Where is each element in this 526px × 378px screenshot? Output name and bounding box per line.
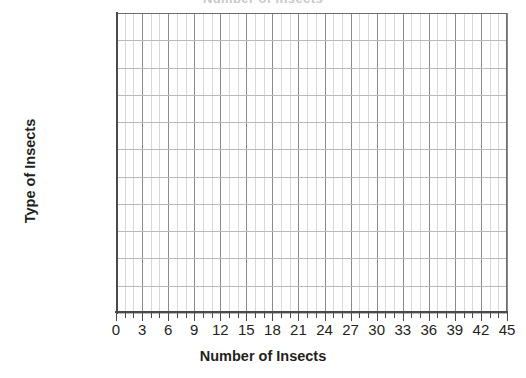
gridline-vertical-minor (186, 13, 187, 313)
x-tick-minor (238, 313, 239, 318)
x-tick-major (246, 313, 247, 321)
x-tick-minor (472, 313, 473, 318)
x-tick-minor (464, 313, 465, 318)
plot-area (116, 13, 507, 313)
x-tick-minor (307, 313, 308, 318)
x-tick-major (429, 313, 430, 321)
x-tick-minor (133, 313, 134, 318)
x-tick-major (194, 313, 195, 321)
x-tick-minor (420, 313, 421, 318)
gridline-vertical-major (220, 13, 221, 313)
gridline-vertical-minor (437, 13, 438, 313)
gridline-vertical-minor (394, 13, 395, 313)
x-tick-major (168, 313, 169, 321)
x-tick-major (403, 313, 404, 321)
gridline-vertical-major (429, 13, 430, 313)
x-tick-major (325, 313, 326, 321)
gridline-vertical-minor (151, 13, 152, 313)
x-tick-minor (368, 313, 369, 318)
x-tick-minor (394, 313, 395, 318)
gridline-vertical-minor (490, 13, 491, 313)
x-tick-major (507, 313, 508, 321)
chart-title: Number of Insects (0, 0, 526, 6)
gridlines (116, 13, 507, 313)
gridline-vertical-minor (264, 13, 265, 313)
gridline-vertical-minor (359, 13, 360, 313)
x-tick-major (272, 313, 273, 321)
x-tick-minor (125, 313, 126, 318)
gridline-horizontal (116, 13, 507, 14)
x-tick-minor (359, 313, 360, 318)
x-tick-minor (186, 313, 187, 318)
gridline-vertical-minor (203, 13, 204, 313)
gridline-vertical-minor (333, 13, 334, 313)
gridline-vertical-minor (125, 13, 126, 313)
x-axis-title: Number of Insects (0, 348, 526, 364)
gridline-vertical-minor (133, 13, 134, 313)
x-tick-minor (290, 313, 291, 318)
gridline-vertical-major (272, 13, 273, 313)
x-tick-major (298, 313, 299, 321)
x-tick-label: 45 (487, 321, 526, 338)
gridline-vertical-minor (177, 13, 178, 313)
gridline-horizontal (116, 204, 507, 205)
gridline-horizontal (116, 68, 507, 69)
x-tick-minor (437, 313, 438, 318)
gridline-vertical-major (142, 13, 143, 313)
gridline-horizontal (116, 177, 507, 178)
gridline-horizontal (116, 149, 507, 150)
gridline-vertical-major (455, 13, 456, 313)
gridline-vertical-minor (238, 13, 239, 313)
gridline-vertical-major (325, 13, 326, 313)
gridline-vertical-major (403, 13, 404, 313)
gridline-vertical-minor (255, 13, 256, 313)
x-tick-minor (203, 313, 204, 318)
x-axis-line (115, 311, 508, 313)
gridline-horizontal (116, 40, 507, 41)
x-tick-major (220, 313, 221, 321)
y-axis-title: Type of Insects (22, 71, 38, 271)
gridline-horizontal (116, 313, 507, 314)
gridline-vertical-major (168, 13, 169, 313)
x-tick-minor (151, 313, 152, 318)
gridline-vertical-major (377, 13, 378, 313)
gridline-vertical-minor (472, 13, 473, 313)
x-tick-minor (229, 313, 230, 318)
x-tick-minor (212, 313, 213, 318)
gridline-vertical-minor (212, 13, 213, 313)
gridline-vertical-minor (464, 13, 465, 313)
gridline-vertical-major (246, 13, 247, 313)
x-tick-minor (264, 313, 265, 318)
x-tick-minor (411, 313, 412, 318)
gridline-vertical-major (351, 13, 352, 313)
gridline-vertical-major (194, 13, 195, 313)
y-axis-line (116, 12, 118, 314)
gridline-vertical-minor (411, 13, 412, 313)
x-tick-minor (446, 313, 447, 318)
x-tick-major (116, 313, 117, 321)
plot-border-layer (116, 13, 507, 313)
x-tick-major (351, 313, 352, 321)
x-tick-minor (316, 313, 317, 318)
gridline-horizontal (116, 258, 507, 259)
x-tick-minor (255, 313, 256, 318)
gridline-vertical-minor (307, 13, 308, 313)
gridline-vertical-minor (498, 13, 499, 313)
plot-border (116, 13, 507, 313)
x-tick-minor (281, 313, 282, 318)
gridline-vertical-minor (446, 13, 447, 313)
gridline-vertical-minor (385, 13, 386, 313)
gridline-vertical-minor (290, 13, 291, 313)
gridline-vertical-minor (229, 13, 230, 313)
gridline-vertical-major (507, 13, 508, 313)
gridline-vertical-minor (420, 13, 421, 313)
gridline-vertical-major (481, 13, 482, 313)
gridline-vertical-minor (368, 13, 369, 313)
gridline-vertical-major (298, 13, 299, 313)
x-tick-minor (498, 313, 499, 318)
gridline-vertical-minor (316, 13, 317, 313)
gridline-vertical-minor (281, 13, 282, 313)
gridline-horizontal (116, 95, 507, 96)
gridline-horizontal (116, 286, 507, 287)
x-tick-minor (342, 313, 343, 318)
